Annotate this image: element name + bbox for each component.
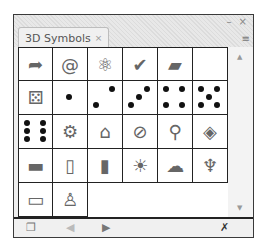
symbols-grid: ➦@⚛✔▰⚄⚙⌂⊘⚲◈▬▯▮☀☁♆▭♙ — [18, 47, 228, 217]
symbol-spinning-top[interactable]: ♆ — [193, 149, 228, 183]
at-sign-icon: @ — [61, 54, 79, 75]
previous-icon[interactable]: ◀ — [66, 221, 74, 234]
paper-icon: ▯ — [65, 155, 75, 176]
symbol-gear[interactable]: ⚙ — [53, 115, 88, 149]
picture-icon: ▮ — [100, 155, 110, 176]
window-controls: – × — [226, 16, 249, 27]
vertical-scrollbar[interactable]: ▲ ▼ — [228, 47, 253, 218]
symbol-checkmark[interactable]: ✔ — [123, 47, 158, 81]
symbol-stripe-texture[interactable]: ▭ — [18, 183, 53, 217]
symbol-box[interactable]: ▰ — [158, 47, 193, 81]
tab-close-icon[interactable]: × — [95, 33, 103, 43]
symbol-atom[interactable]: ⚛ — [88, 47, 123, 81]
symbol-die-2[interactable] — [88, 81, 123, 115]
symbol-die-4[interactable] — [158, 81, 193, 115]
die-5-icon — [198, 86, 222, 110]
die-4-icon — [163, 86, 187, 110]
symbols-grid-area: ➦@⚛✔▰⚄⚙⌂⊘⚲◈▬▯▮☀☁♆▭♙ — [18, 47, 228, 218]
box-icon: ▰ — [168, 54, 182, 75]
symbol-die-3[interactable] — [123, 81, 158, 115]
die-3-icon — [128, 86, 152, 110]
atom-icon: ⚛ — [97, 54, 113, 75]
magnifier-icon: ⚲ — [168, 121, 181, 142]
symbol-map-texture[interactable]: ▬ — [18, 149, 53, 183]
symbol-magnifier[interactable]: ⚲ — [158, 115, 193, 149]
close-button[interactable]: × — [239, 16, 249, 27]
symbol-die-6[interactable] — [18, 115, 53, 149]
spinning-top-icon: ♆ — [202, 155, 218, 176]
scroll-down-icon[interactable]: ▼ — [237, 204, 242, 212]
tab-3d-symbols[interactable]: 3D Symbols × — [18, 27, 109, 48]
3d-symbols-panel: – × 3D Symbols × ≡ ➦@⚛✔▰⚄⚙⌂⊘⚲◈▬▯▮☀☁♆▭♙ ▲… — [13, 14, 254, 238]
cube-icon: ◈ — [203, 121, 217, 142]
checkmark-icon: ✔ — [132, 54, 147, 75]
no-sign-icon: ⊘ — [132, 121, 147, 142]
symbol-die-1[interactable] — [53, 81, 88, 115]
dice-pair-icon: ⚄ — [28, 87, 44, 108]
map-texture-icon: ▬ — [27, 155, 44, 176]
tab-label: 3D Symbols — [25, 32, 91, 45]
die-2-icon — [93, 86, 117, 110]
bottle-icon: ♙ — [62, 189, 78, 210]
gear-icon: ⚙ — [62, 121, 78, 142]
panel-titlebar: – × 3D Symbols × ≡ — [14, 15, 253, 47]
panel-menu-icon[interactable]: ≡ — [242, 33, 250, 44]
symbol-bottle[interactable]: ♙ — [53, 183, 88, 217]
symbol-picture[interactable]: ▮ — [88, 149, 123, 183]
scroll-up-icon[interactable]: ▲ — [237, 53, 242, 61]
symbol-paper[interactable]: ▯ — [53, 149, 88, 183]
sun-icon: ☀ — [132, 155, 148, 176]
house-icon: ⌂ — [99, 121, 110, 142]
break-link-icon[interactable]: ✗ — [220, 221, 229, 234]
cloud-icon: ☁ — [166, 155, 184, 176]
symbol-cube[interactable]: ◈ — [193, 115, 228, 149]
symbol-no-sign[interactable]: ⊘ — [123, 115, 158, 149]
symbol-at-sign[interactable]: @ — [53, 47, 88, 81]
die-1-icon — [58, 86, 82, 110]
symbol-die-5[interactable] — [193, 81, 228, 115]
symbol-house[interactable]: ⌂ — [88, 115, 123, 149]
die-6-icon — [24, 120, 48, 144]
symbol-dice-pair[interactable]: ⚄ — [18, 81, 53, 115]
next-icon[interactable]: ▶ — [102, 221, 110, 234]
minimize-button[interactable]: – — [226, 16, 233, 27]
symbol-libraries-menu-icon[interactable]: ❐ — [26, 221, 36, 234]
arrow-icon: ➦ — [28, 54, 43, 75]
panel-footer: ❐ ◀ ▶ ✗ — [14, 217, 253, 237]
symbol-cloud[interactable]: ☁ — [158, 149, 193, 183]
symbol-arrow[interactable]: ➦ — [18, 47, 53, 81]
symbol-blank[interactable] — [193, 47, 228, 81]
stripe-texture-icon: ▭ — [27, 189, 44, 210]
symbol-sun[interactable]: ☀ — [123, 149, 158, 183]
